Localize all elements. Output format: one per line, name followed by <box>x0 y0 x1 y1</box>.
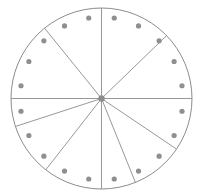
perimeter-dot <box>136 23 141 28</box>
perimeter-dot <box>157 38 162 43</box>
perimeter-dot <box>179 83 184 88</box>
perimeter-dot <box>172 133 177 138</box>
perimeter-dot <box>26 133 31 138</box>
perimeter-dot <box>179 109 184 114</box>
perimeter-dot <box>136 169 141 174</box>
perimeter-dot <box>112 176 117 181</box>
center-hub <box>98 95 104 101</box>
perimeter-dot <box>172 59 177 64</box>
perimeter-dot <box>41 154 46 159</box>
perimeter-dot <box>62 169 67 174</box>
perimeter-dot <box>18 109 23 114</box>
figure-canvas <box>0 0 202 196</box>
perimeter-dot <box>18 83 23 88</box>
perimeter-dot <box>26 59 31 64</box>
center-hub-layer <box>98 95 104 101</box>
perimeter-dot <box>157 154 162 159</box>
perimeter-dot <box>62 23 67 28</box>
perimeter-dot <box>86 176 91 181</box>
perimeter-dot <box>41 38 46 43</box>
perimeter-dot <box>86 15 91 20</box>
perimeter-dot <box>112 15 117 20</box>
sectored-circle-diagram <box>0 0 202 196</box>
